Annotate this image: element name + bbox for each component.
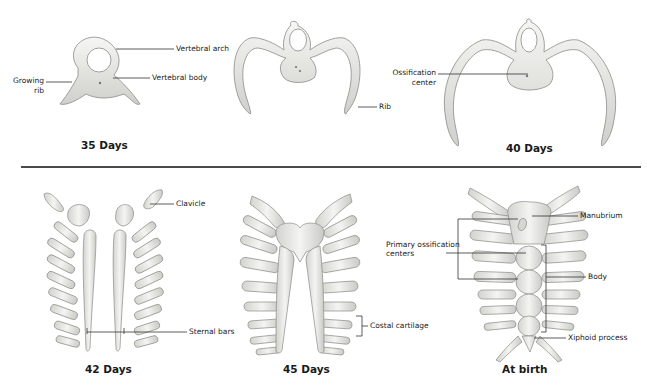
caption-at-birth: At birth (502, 363, 548, 375)
caption-40-days: 40 Days (506, 142, 553, 154)
vertebra-40-days (444, 19, 615, 146)
label-growing-rib-line1: Growing (10, 76, 44, 85)
sternum-45-days (239, 194, 360, 355)
label-ossification-center-line1: Ossification (378, 68, 436, 77)
label-clavicle: Clavicle (176, 199, 205, 208)
caption-35-days: 35 Days (81, 139, 128, 151)
label-ossification-center-line2: center (378, 78, 436, 87)
label-vertebral-body: Vertebral body (152, 73, 207, 82)
label-primary-ossification-centers-line1: Primary ossification (386, 240, 460, 249)
vertebra-with-ribs (234, 21, 360, 114)
label-manubrium: Manubrium (580, 211, 623, 220)
illustration-canvas (0, 0, 647, 387)
vertebra-35-days (60, 37, 140, 104)
label-rib: Rib (379, 102, 391, 111)
label-vertebral-arch: Vertebral arch (176, 44, 229, 53)
label-body: Body (588, 272, 607, 281)
label-costal-cartilage: Costal cartilage (370, 321, 429, 330)
row-separator (21, 166, 641, 168)
sternum-42-days (44, 190, 164, 351)
label-growing-rib-line2: rib (10, 86, 44, 95)
label-sternal-bars: Sternal bars (189, 327, 234, 336)
caption-45-days: 45 Days (283, 363, 330, 375)
caption-42-days: 42 Days (85, 363, 132, 375)
label-primary-ossification-centers-line2: centers (386, 249, 414, 258)
label-xiphoid-process: Xiphoid process (568, 333, 627, 342)
embryonic-sternum-rib-development-diagram: Vertebral arch Vertebral body Growing ri… (0, 0, 647, 387)
